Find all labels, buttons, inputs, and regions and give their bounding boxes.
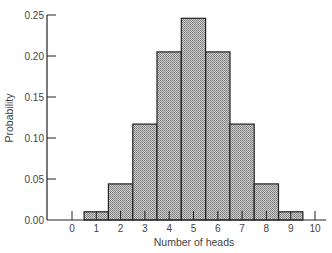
bars-group: [84, 18, 303, 220]
x-tick-label: 2: [118, 223, 124, 234]
x-tick-label: 5: [191, 223, 197, 234]
y-tick-label: 0.25: [25, 10, 45, 21]
x-axis-title: Number of heads: [154, 236, 235, 248]
x-tick-label: 1: [94, 223, 100, 234]
bar-6: [206, 52, 230, 220]
y-tick-label: 0.00: [25, 215, 45, 226]
x-tick-label: 0: [69, 223, 75, 234]
y-tick-label: 0.20: [25, 51, 45, 62]
x-tick-label: 7: [239, 223, 245, 234]
x-tick-label: 6: [215, 223, 221, 234]
y-axis-title: Probability: [3, 93, 15, 143]
y-tick-label: 0.15: [25, 92, 45, 103]
y-tick-label: 0.05: [25, 174, 45, 185]
y-axis: 0.000.050.100.150.200.25: [25, 10, 56, 226]
x-tick-label: 10: [309, 223, 321, 234]
x-tick-label: 8: [264, 223, 270, 234]
x-tick-label: 3: [142, 223, 148, 234]
histogram-chart: 0.000.050.100.150.200.25 012345678910 Pr…: [0, 0, 332, 253]
x-tick-label: 9: [288, 223, 294, 234]
bar-4: [157, 52, 181, 220]
bar-3: [133, 124, 157, 220]
bar-7: [230, 124, 254, 220]
y-tick-label: 0.10: [25, 133, 45, 144]
x-tick-label: 4: [166, 223, 172, 234]
bar-5: [181, 18, 205, 220]
